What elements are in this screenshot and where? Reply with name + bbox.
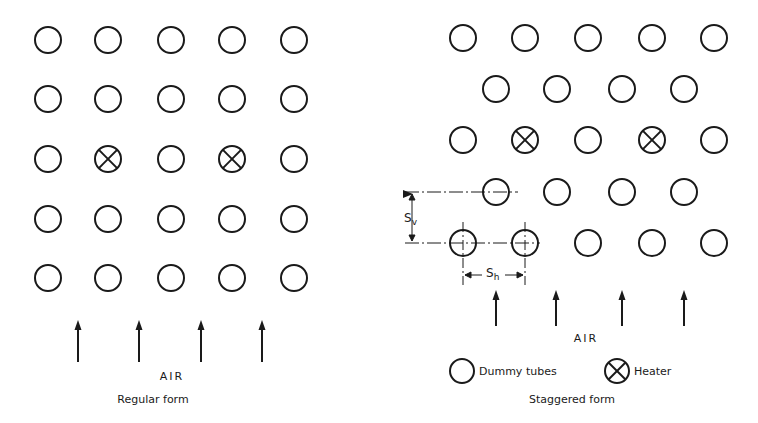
arrow-head-icon bbox=[75, 320, 82, 330]
dummy-tube bbox=[158, 206, 184, 232]
dummy-tube bbox=[35, 86, 61, 112]
dummy-tube bbox=[35, 146, 61, 172]
dummy-tube bbox=[639, 230, 665, 256]
legend: Dummy tubes Heater bbox=[450, 359, 672, 383]
heater-legend-label: Heater bbox=[634, 365, 672, 378]
dummy-tube bbox=[701, 127, 727, 153]
dummy-tube-legend-icon bbox=[450, 359, 474, 383]
dummy-tube bbox=[281, 86, 307, 112]
staggered-air-arrows bbox=[493, 290, 688, 326]
dummy-tube bbox=[544, 76, 570, 102]
arrow-head-icon bbox=[136, 320, 143, 330]
dummy-tube bbox=[281, 265, 307, 291]
regular-form-caption: Regular form bbox=[117, 393, 188, 406]
heater-legend-icon bbox=[605, 359, 629, 383]
regular-air-arrows bbox=[75, 320, 266, 362]
staggered-form-caption: Staggered form bbox=[529, 393, 615, 406]
dummy-tube bbox=[483, 76, 509, 102]
horizontal-spacing-label: Sh bbox=[486, 266, 499, 282]
dummy-tube bbox=[575, 127, 601, 153]
dummy-tube bbox=[639, 25, 665, 51]
heater-tube bbox=[219, 146, 245, 172]
dummy-tube bbox=[450, 127, 476, 153]
dummy-tube bbox=[95, 265, 121, 291]
tube-bank-diagram: AIR Regular form Sv Sh AIR Dummy tubes H… bbox=[0, 0, 758, 423]
dummy-tube bbox=[450, 25, 476, 51]
dummy-tube bbox=[575, 230, 601, 256]
dummy-tube bbox=[35, 27, 61, 53]
dummy-tube bbox=[219, 86, 245, 112]
dummy-tube bbox=[281, 146, 307, 172]
dummy-tube bbox=[95, 206, 121, 232]
vertical-spacing-label: Sv bbox=[404, 211, 418, 227]
dummy-tube bbox=[609, 76, 635, 102]
dummy-tube-legend-label: Dummy tubes bbox=[479, 365, 557, 378]
arrow-head-icon bbox=[553, 290, 560, 300]
dummy-tube bbox=[219, 206, 245, 232]
dummy-tube bbox=[158, 146, 184, 172]
dummy-tube bbox=[35, 265, 61, 291]
dummy-tube bbox=[219, 27, 245, 53]
dummy-tube bbox=[512, 25, 538, 51]
dummy-tube bbox=[544, 179, 570, 205]
arrow-head-icon bbox=[493, 290, 500, 300]
dummy-tube bbox=[671, 179, 697, 205]
arrow-head-icon bbox=[681, 290, 688, 300]
dummy-tube bbox=[158, 86, 184, 112]
spacing-dimensions bbox=[405, 192, 540, 285]
heater-tube bbox=[95, 146, 121, 172]
dummy-tube bbox=[219, 265, 245, 291]
dummy-tube bbox=[158, 27, 184, 53]
dummy-tube bbox=[158, 265, 184, 291]
dummy-tube bbox=[95, 27, 121, 53]
arrow-head-icon bbox=[619, 290, 626, 300]
dummy-tube bbox=[701, 230, 727, 256]
dummy-tube bbox=[95, 86, 121, 112]
arrow-head-icon bbox=[198, 320, 205, 330]
heater-tube bbox=[512, 127, 538, 153]
dummy-tube bbox=[609, 179, 635, 205]
heater-tube bbox=[639, 127, 665, 153]
dummy-tube bbox=[281, 27, 307, 53]
regular-tube-array bbox=[35, 27, 307, 291]
dummy-tube bbox=[575, 25, 601, 51]
regular-air-label: AIR bbox=[160, 370, 184, 383]
dummy-tube bbox=[701, 25, 727, 51]
dummy-tube bbox=[671, 76, 697, 102]
staggered-tube-array bbox=[450, 25, 727, 256]
dummy-tube bbox=[35, 206, 61, 232]
dummy-tube bbox=[281, 206, 307, 232]
arrow-head-icon bbox=[259, 320, 266, 330]
staggered-air-label: AIR bbox=[574, 332, 598, 345]
